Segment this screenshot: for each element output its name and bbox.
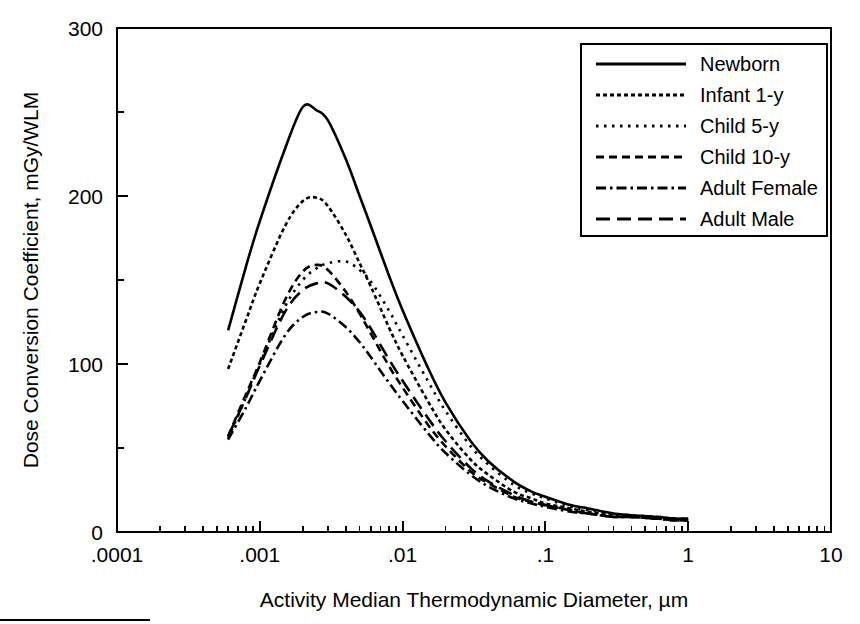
series-line-adult-female bbox=[228, 312, 688, 521]
legend-label: Adult Female bbox=[700, 177, 818, 199]
y-tick-label: 0 bbox=[91, 521, 103, 544]
chart-legend: NewbornInfant 1-yChild 5-yChild 10-yAdul… bbox=[581, 44, 827, 236]
series-line-child-10-y bbox=[228, 265, 688, 521]
legend-label: Child 5-y bbox=[700, 115, 779, 137]
series-line-child-5-y bbox=[228, 261, 688, 519]
y-axis-ticks bbox=[117, 28, 128, 532]
legend-label: Adult Male bbox=[700, 208, 795, 230]
x-axis-tick-labels: .0001.001.01.1110 bbox=[91, 543, 843, 566]
x-tick-label: .0001 bbox=[91, 543, 144, 566]
y-tick-label: 200 bbox=[68, 185, 103, 208]
x-tick-label: 10 bbox=[819, 543, 842, 566]
x-tick-label: .001 bbox=[239, 543, 280, 566]
x-tick-label: .01 bbox=[388, 543, 417, 566]
chart-figure: .0001.001.01.1110 0100200300 Activity Me… bbox=[0, 0, 860, 624]
chart-canvas: .0001.001.01.1110 0100200300 Activity Me… bbox=[0, 0, 860, 624]
x-tick-label: 1 bbox=[682, 543, 694, 566]
x-axis-title: Activity Median Thermodynamic Diameter, … bbox=[260, 588, 688, 611]
x-tick-label: .1 bbox=[537, 543, 555, 566]
y-axis-tick-labels: 0100200300 bbox=[68, 17, 103, 544]
legend-label: Infant 1-y bbox=[700, 84, 783, 106]
x-axis-ticks bbox=[117, 521, 831, 532]
series-line-adult-male bbox=[228, 282, 688, 520]
y-tick-label: 100 bbox=[68, 353, 103, 376]
y-axis-title: Dose Conversion Coefficient, mGy/WLM bbox=[19, 92, 42, 469]
series-line-infant-1-y bbox=[228, 197, 688, 520]
y-tick-label: 300 bbox=[68, 17, 103, 40]
legend-label: Child 10-y bbox=[700, 146, 790, 168]
legend-label: Newborn bbox=[700, 53, 780, 75]
